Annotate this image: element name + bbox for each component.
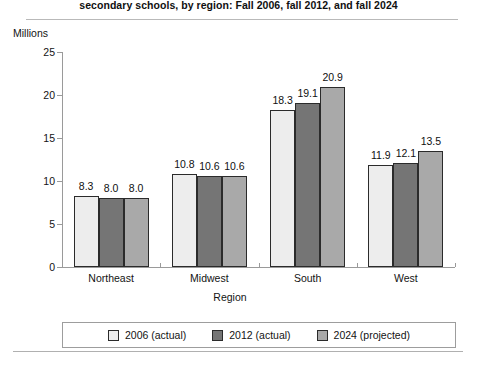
x-axis-group-tick	[455, 263, 456, 267]
x-axis-title: Region	[0, 291, 460, 303]
y-axis-tick	[57, 138, 62, 139]
y-tick-label: 0	[49, 262, 55, 273]
bar	[99, 198, 124, 267]
x-axis-category-label: South	[259, 272, 357, 284]
y-tick-label: 10	[43, 176, 55, 187]
y-axis-tick	[57, 267, 62, 268]
legend-swatch-icon	[317, 330, 328, 341]
y-tick-label: 20	[43, 90, 55, 101]
bar	[368, 165, 393, 267]
y-axis-tick	[57, 181, 62, 182]
x-axis-group-tick	[259, 263, 260, 267]
legend-item-2012[interactable]: 2012 (actual)	[212, 329, 290, 341]
y-tick-label: 15	[43, 133, 55, 144]
figure: secondary schools, by region: Fall 2006,…	[0, 0, 477, 365]
x-axis-category-label: Midwest	[160, 272, 258, 284]
legend-label: 2024 (projected)	[334, 329, 410, 341]
bar	[74, 196, 99, 267]
legend-item-2006[interactable]: 2006 (actual)	[108, 329, 186, 341]
y-tick-label: 5	[49, 219, 55, 230]
title-divider	[26, 19, 458, 20]
x-axis-group-tick	[357, 263, 358, 267]
bar	[222, 176, 247, 267]
y-axis-tick	[57, 224, 62, 225]
legend-label: 2012 (actual)	[229, 329, 290, 341]
x-axis-group-tick	[160, 263, 161, 267]
x-axis-category-label: West	[357, 272, 455, 284]
y-axis-tick	[57, 52, 62, 53]
bar-value-label: 10.6	[216, 161, 253, 172]
bar	[172, 174, 197, 267]
bar	[124, 198, 149, 267]
y-axis-tick	[57, 95, 62, 96]
footer-divider	[13, 351, 463, 352]
x-axis-category-label: Northeast	[62, 272, 160, 284]
legend-item-2024[interactable]: 2024 (projected)	[317, 329, 410, 341]
bar-value-label: 13.5	[412, 136, 449, 147]
chart-title: secondary schools, by region: Fall 2006,…	[0, 0, 477, 11]
x-axis-line	[62, 267, 455, 268]
bar-value-label: 8.0	[118, 183, 155, 194]
y-axis-line	[62, 52, 63, 268]
bar-value-label: 20.9	[314, 72, 351, 83]
y-axis-tick-labels: 25 20 15 10 5 0	[22, 52, 55, 268]
y-axis-units-label: Millions	[13, 27, 48, 39]
y-tick-label: 25	[43, 47, 55, 58]
chart-legend: 2006 (actual) 2012 (actual) 2024 (projec…	[62, 322, 456, 348]
bar	[270, 110, 295, 267]
bar	[320, 87, 345, 267]
bar	[197, 176, 222, 267]
legend-swatch-icon	[108, 330, 119, 341]
bar	[418, 151, 443, 267]
legend-swatch-icon	[212, 330, 223, 341]
bar	[295, 103, 320, 267]
bar	[393, 163, 418, 267]
legend-label: 2006 (actual)	[125, 329, 186, 341]
plot-area: 8.38.08.010.810.610.618.319.120.911.912.…	[62, 52, 455, 267]
